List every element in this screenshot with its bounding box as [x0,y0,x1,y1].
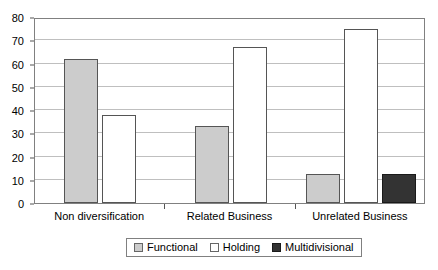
legend-item: Holding [210,242,260,253]
legend-item: Multidivisional [272,242,353,253]
x-axis: Non diversificationRelated BusinessUnrel… [34,204,425,228]
bar [382,174,416,203]
legend-swatch-icon [134,243,143,252]
bar [102,115,136,203]
bar [233,47,267,203]
y-tick-label: 0 [18,199,24,210]
legend-item: Functional [134,242,198,253]
x-tick-mark [295,204,296,209]
bars-layer [35,19,424,203]
bar [306,174,340,203]
y-tick-label: 20 [12,152,24,163]
plot-area [34,18,425,204]
y-tick-label: 10 [12,175,24,186]
legend-label: Functional [147,242,198,253]
y-tick-label: 30 [12,129,24,140]
x-tick-label: Related Business [187,210,273,223]
x-tick-label: Non diversification [54,210,144,223]
legend-label: Multidivisional [285,242,353,253]
bar [64,59,98,203]
x-tick-label: Unrelated Business [312,210,407,223]
bar [195,126,229,203]
y-tick-label: 80 [12,13,24,24]
y-tick-label: 70 [12,36,24,47]
legend-swatch-icon [272,243,281,252]
y-tick-label: 40 [12,106,24,117]
y-tick-label: 60 [12,59,24,70]
bar-chart: 01020304050607080 Non diversificationRel… [0,0,438,270]
chart-legend: FunctionalHoldingMultidivisional [126,238,362,257]
x-tick-mark [164,204,165,209]
y-axis: 01020304050607080 [0,18,30,204]
y-tick-label: 50 [12,82,24,93]
legend-label: Holding [223,242,260,253]
legend-swatch-icon [210,243,219,252]
bar [344,29,378,203]
